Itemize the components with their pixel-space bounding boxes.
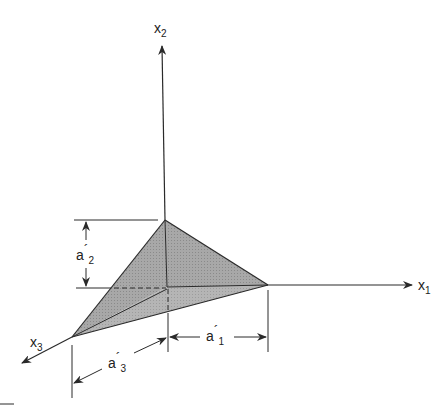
a3-arrow-upper: [134, 338, 166, 353]
a3-label: a´3: [108, 350, 126, 374]
a3-arrow-lower: [74, 369, 102, 383]
x2-axis-label: x2: [154, 20, 167, 39]
x3-axis-label: x3: [30, 334, 43, 353]
a1-label: a´1: [206, 323, 224, 347]
a2-label: a´2: [76, 242, 94, 266]
diagram-canvas: x2 x1 x3 a´2 a´1 a´3: [0, 0, 447, 411]
dimension-a3: a´3: [72, 338, 166, 398]
intercept-plane: [72, 220, 268, 337]
x2-axis: [162, 46, 165, 220]
x1-axis-label: x1: [418, 277, 431, 296]
axes: [22, 46, 412, 363]
